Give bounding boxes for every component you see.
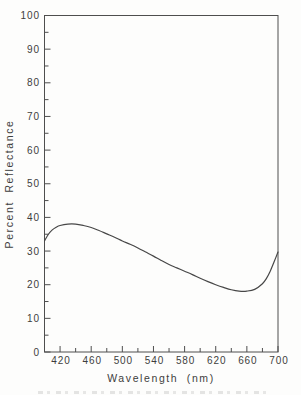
x-tick-label: 580 <box>176 355 195 366</box>
y-tick-label: 100 <box>21 10 40 21</box>
x-tick-label: 540 <box>145 355 164 366</box>
x-tick-label: 700 <box>269 355 288 366</box>
x-tick-label: 420 <box>51 355 70 366</box>
x-tick-label: 660 <box>238 355 257 366</box>
y-tick-label: 0 <box>34 347 40 358</box>
y-tick-label: 10 <box>27 313 40 324</box>
y-tick-label: 90 <box>27 44 40 55</box>
reflectance-chart-figure: 0102030405060708090100 42046050054058062… <box>0 0 301 395</box>
y-axis-title: Percent Reflectance <box>3 120 15 249</box>
y-axis-tick-labels: 0102030405060708090100 <box>21 10 40 358</box>
reflectance-curve-path <box>45 224 279 291</box>
reflectance-curve <box>45 224 279 291</box>
x-axis-tick-labels: 420460500540580620660700 <box>51 355 288 366</box>
plot-border <box>45 16 279 353</box>
cut-off-caption-artifact <box>38 391 268 394</box>
x-tick-label: 620 <box>207 355 226 366</box>
x-tick-label: 460 <box>83 355 102 366</box>
y-tick-label: 20 <box>27 279 40 290</box>
y-tick-label: 80 <box>27 77 40 88</box>
y-tick-label: 70 <box>27 111 40 122</box>
y-tick-label: 40 <box>27 212 40 223</box>
chart-svg: 0102030405060708090100 42046050054058062… <box>0 0 301 395</box>
x-axis-ticks <box>60 346 278 352</box>
y-axis-ticks <box>45 16 51 353</box>
plot-frame <box>45 16 279 353</box>
x-axis-title: Wavelength (nm) <box>107 372 215 384</box>
y-tick-label: 50 <box>27 178 40 189</box>
y-tick-label: 30 <box>27 246 40 257</box>
y-tick-label: 60 <box>27 145 40 156</box>
x-tick-label: 500 <box>114 355 133 366</box>
